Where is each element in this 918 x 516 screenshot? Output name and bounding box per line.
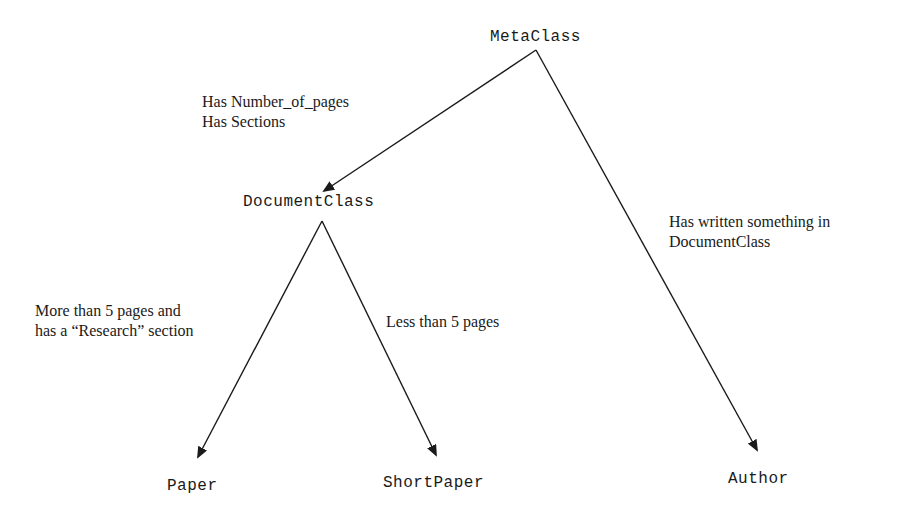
edge-label-documentclass-paper: More than 5 pages and has a “Research” s… (35, 301, 194, 341)
label-line: Has Number_of_pages (202, 92, 349, 112)
node-author: Author (728, 470, 789, 488)
edge-label-metaclass-author: Has written something in DocumentClass (669, 212, 830, 252)
node-shortpaper: ShortPaper (383, 474, 484, 492)
label-line: has a “Research” section (35, 321, 194, 341)
label-line: Has written something in (669, 212, 830, 232)
edge-metaclass-documentclass (324, 50, 536, 191)
edge-documentclass-paper (198, 221, 322, 457)
edge-label-metaclass-documentclass: Has Number_of_pages Has Sections (202, 92, 349, 132)
edge-label-documentclass-shortpaper: Less than 5 pages (386, 312, 499, 332)
label-line: Less than 5 pages (386, 312, 499, 332)
label-line: DocumentClass (669, 232, 830, 252)
node-metaclass: MetaClass (490, 28, 581, 46)
label-line: Has Sections (202, 112, 349, 132)
node-documentclass: DocumentClass (243, 193, 374, 211)
label-line: More than 5 pages and (35, 301, 194, 321)
edge-documentclass-shortpaper (322, 221, 436, 455)
edges-layer (0, 0, 918, 516)
diagram-canvas: MetaClass DocumentClass Paper ShortPaper… (0, 0, 918, 516)
node-paper: Paper (167, 477, 218, 495)
